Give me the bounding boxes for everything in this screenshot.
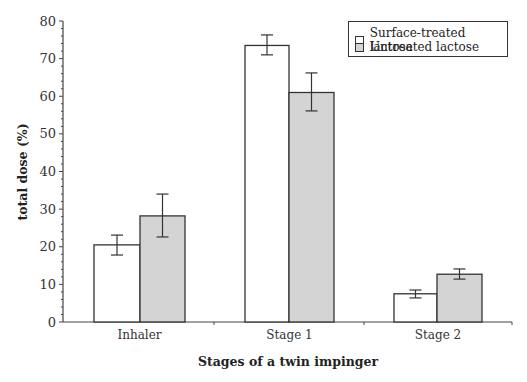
y-axis-title: total dose (%) (15, 123, 30, 220)
x-category-label: Stage 1 (266, 328, 312, 342)
bar (94, 245, 140, 322)
x-axis-title: Stages of a twin impinger (198, 354, 378, 369)
legend: Surface-treated lactose Untreated lactos… (348, 21, 508, 57)
bar (245, 45, 289, 322)
bar (289, 92, 334, 322)
x-category-label: Stage 2 (415, 328, 461, 342)
y-tick-label: 60 (39, 89, 56, 104)
y-tick-label: 70 (39, 51, 56, 66)
legend-item-untreated: Untreated lactose (355, 40, 479, 54)
legend-label: Untreated lactose (370, 40, 479, 54)
y-tick-label: 80 (39, 14, 56, 29)
y-tick-label: 10 (39, 277, 56, 292)
y-tick-label: 30 (39, 202, 56, 217)
legend-swatch-gray (355, 43, 364, 52)
y-tick-label: 20 (39, 239, 56, 254)
y-tick-label: 40 (39, 164, 56, 179)
bar-chart: 01020304050607080InhalerStage 1Stage 2St… (0, 0, 527, 382)
bar (437, 274, 482, 322)
y-tick-label: 50 (39, 126, 56, 141)
y-tick-label: 0 (48, 315, 56, 330)
x-category-label: Inhaler (117, 328, 161, 342)
